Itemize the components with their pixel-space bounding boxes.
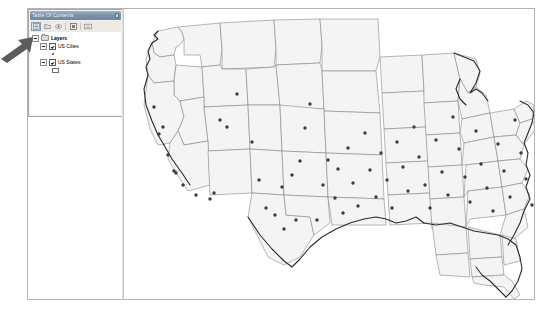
city-point <box>363 131 366 134</box>
city-point <box>463 175 466 178</box>
options-button[interactable] <box>83 22 93 31</box>
city-point <box>451 115 454 118</box>
expander-us-cities[interactable] <box>40 43 47 50</box>
legend-row-us-states <box>30 66 121 74</box>
city-point <box>356 204 359 207</box>
city-point <box>351 181 354 184</box>
selection-icon <box>70 23 77 30</box>
city-point <box>412 125 415 128</box>
city-point <box>508 195 511 198</box>
city-point <box>385 178 388 181</box>
city-point <box>519 151 522 154</box>
city-point <box>166 153 169 156</box>
city-point <box>502 169 505 172</box>
city-point <box>440 170 443 173</box>
drawing-order-icon <box>33 23 40 30</box>
city-point <box>333 196 336 199</box>
city-point <box>273 213 276 216</box>
table-of-contents-panel[interactable]: Table Of Contents <box>28 9 123 117</box>
city-point <box>496 142 499 145</box>
city-point <box>417 155 420 158</box>
map-canvas[interactable] <box>124 9 534 299</box>
city-point <box>294 218 297 221</box>
list-by-drawing-order-button[interactable] <box>31 22 41 31</box>
city-point <box>346 146 349 149</box>
options-icon <box>84 23 92 30</box>
city-point <box>379 151 382 154</box>
city-point <box>390 206 393 209</box>
city-point <box>395 140 398 143</box>
us-states-layer <box>144 19 534 299</box>
city-point <box>303 126 306 129</box>
expander-us-states[interactable] <box>40 59 47 66</box>
city-point <box>194 193 197 196</box>
point-symbol-icon <box>52 53 54 55</box>
city-point <box>530 203 533 206</box>
city-point <box>225 125 228 128</box>
city-point <box>428 206 431 209</box>
city-point <box>468 200 471 203</box>
city-point <box>479 162 482 165</box>
visibility-icon <box>55 23 62 30</box>
city-point <box>298 159 301 162</box>
city-point <box>157 132 160 135</box>
city-point <box>401 165 404 168</box>
legend-row-us-cities <box>30 50 121 58</box>
city-point <box>257 178 260 181</box>
city-point <box>406 189 409 192</box>
city-point <box>208 197 211 200</box>
city-point <box>485 186 488 189</box>
tree-label-us-states: US States <box>58 59 81 65</box>
city-point <box>321 183 324 186</box>
city-point <box>368 168 371 171</box>
checkbox-us-states[interactable] <box>49 59 56 66</box>
list-by-source-button[interactable] <box>42 22 52 31</box>
city-point <box>290 173 293 176</box>
city-point <box>326 158 329 161</box>
city-point <box>235 92 238 95</box>
city-point <box>374 195 377 198</box>
city-point <box>218 118 221 121</box>
folder-icon <box>41 35 49 41</box>
city-point <box>308 102 311 105</box>
city-point <box>280 185 283 188</box>
map-data-frame: Table Of Contents <box>27 8 535 300</box>
city-point <box>491 209 494 212</box>
city-point <box>174 171 177 174</box>
city-point <box>264 206 267 209</box>
toolbar-separator <box>65 23 66 30</box>
city-point <box>341 211 344 214</box>
toc-titlebar[interactable]: Table Of Contents <box>30 11 121 20</box>
tree-row-us-states[interactable]: US States <box>30 58 121 66</box>
city-point <box>446 193 449 196</box>
city-point <box>457 147 460 150</box>
toc-layer-tree[interactable]: Layers US Cities US States <box>30 32 121 115</box>
city-point <box>152 105 155 108</box>
tree-row-us-cities[interactable]: US Cities <box>30 42 121 50</box>
polygon-symbol-icon <box>52 68 59 73</box>
city-point <box>282 227 285 230</box>
checkbox-us-cities[interactable] <box>49 43 56 50</box>
city-point <box>212 191 215 194</box>
city-point <box>181 183 184 186</box>
list-by-visibility-button[interactable] <box>53 22 63 31</box>
auto-hide-pin-icon[interactable] <box>115 13 119 18</box>
city-point <box>513 118 516 121</box>
tree-label-layers: Layers <box>51 35 67 41</box>
city-point <box>423 183 426 186</box>
city-point <box>524 177 527 180</box>
list-by-selection-button[interactable] <box>68 22 78 31</box>
city-point <box>250 140 253 143</box>
city-point <box>161 125 164 128</box>
city-point <box>315 218 318 221</box>
tree-label-us-cities: US Cities <box>58 43 79 49</box>
city-point <box>434 138 437 141</box>
city-point <box>336 167 339 170</box>
city-point <box>474 129 477 132</box>
expander-layers[interactable] <box>32 35 39 42</box>
toolbar-separator-2 <box>80 23 81 30</box>
us-map-svg <box>124 9 534 299</box>
source-icon <box>44 23 51 30</box>
tree-row-layers-root[interactable]: Layers <box>30 34 121 42</box>
toc-title: Table Of Contents <box>32 13 74 18</box>
